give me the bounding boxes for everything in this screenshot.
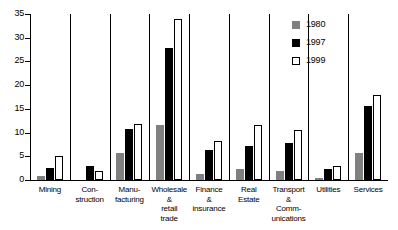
x-axis-category-label: Services — [344, 185, 392, 195]
bar — [254, 125, 262, 180]
bar — [95, 171, 103, 180]
bar — [333, 166, 341, 180]
legend-swatch-icon — [292, 21, 300, 29]
legend-item: 1997 — [292, 35, 325, 50]
legend-swatch-icon — [292, 57, 300, 65]
bar — [174, 19, 182, 180]
bar — [315, 178, 323, 180]
bar — [285, 143, 293, 180]
bar — [294, 130, 302, 180]
bar — [116, 153, 124, 180]
legend-label: 1980 — [306, 20, 325, 29]
y-axis-tick-label: 0 — [19, 175, 24, 184]
bar — [373, 95, 381, 180]
bar — [46, 168, 54, 180]
y-axis-tick-label: 15 — [14, 104, 24, 113]
legend-label: 1999 — [306, 56, 325, 65]
y-axis-tick-label: 30 — [14, 33, 24, 42]
y-axis-tick — [25, 180, 31, 181]
legend-swatch-icon — [292, 39, 300, 47]
bar — [214, 141, 222, 180]
bar — [355, 153, 363, 181]
bar — [125, 129, 133, 180]
legend-item: 1980 — [292, 17, 325, 32]
bar — [205, 150, 213, 180]
legend-label: 1997 — [306, 38, 325, 47]
bar — [156, 125, 164, 180]
bar — [196, 174, 204, 180]
bar — [165, 48, 173, 180]
bar — [86, 166, 94, 180]
chart-legend: 198019971999 — [292, 17, 325, 71]
y-axis-tick-label: 25 — [14, 56, 24, 65]
bar-chart: 05101520253035 MiningCon- structionManu-… — [0, 0, 398, 230]
y-axis-tick-label: 5 — [19, 151, 24, 160]
bar — [55, 156, 63, 180]
legend-item: 1999 — [292, 53, 325, 68]
bar — [364, 106, 372, 180]
bar — [324, 169, 332, 180]
plot-area — [30, 14, 388, 180]
y-axis-tick-label: 10 — [14, 128, 24, 137]
bar — [245, 146, 253, 180]
y-axis-tick-label: 35 — [14, 9, 24, 18]
y-axis-tick-label: 20 — [14, 80, 24, 89]
bar — [37, 176, 45, 180]
x-axis-line — [30, 180, 388, 181]
bar — [276, 171, 284, 180]
bar — [134, 124, 142, 180]
bar — [236, 169, 244, 180]
